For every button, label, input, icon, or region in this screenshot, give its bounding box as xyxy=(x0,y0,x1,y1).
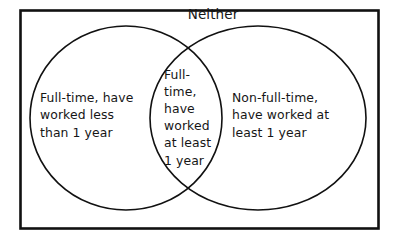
venn-diagram: Neither Full-time, have worked less than… xyxy=(0,0,397,245)
right-only-region-label: Non-full-time, have worked at least 1 ye… xyxy=(232,89,358,141)
universe-label: Neither xyxy=(168,6,258,24)
intersection-region-label: Full- time, have worked at least 1 year xyxy=(164,66,222,169)
left-only-region-label: Full-time, have worked less than 1 year xyxy=(40,89,156,141)
